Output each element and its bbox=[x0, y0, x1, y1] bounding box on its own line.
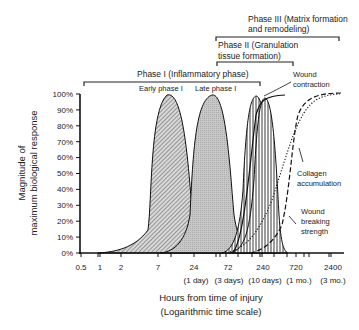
phase-2-label-line1: Phase II (Granulation bbox=[218, 40, 299, 50]
wound-contraction-label-1: Wound bbox=[293, 70, 317, 79]
svg-text:(3 mo.): (3 mo.) bbox=[320, 276, 346, 285]
svg-text:maximum biological response: maximum biological response bbox=[28, 110, 39, 235]
svg-text:30%: 30% bbox=[57, 201, 73, 210]
svg-text:(1 day): (1 day) bbox=[184, 276, 209, 285]
phase-3-label-line1: Phase III (Matrix formation bbox=[248, 14, 348, 24]
svg-text:Magnitude of: Magnitude of bbox=[16, 145, 27, 200]
svg-text:0%: 0% bbox=[61, 249, 73, 258]
wound-contraction-label-2: contraction bbox=[293, 80, 330, 89]
svg-text:(Logarithmic time scale): (Logarithmic time scale) bbox=[161, 306, 262, 317]
x-tick-labels: 0.5 1 2 7 24 72 240 720 2400 (1 day) (3 … bbox=[75, 263, 346, 285]
svg-text:0.5: 0.5 bbox=[75, 263, 87, 272]
svg-text:2: 2 bbox=[119, 263, 124, 272]
svg-text:40%: 40% bbox=[57, 185, 73, 194]
phase-2-bracket bbox=[217, 62, 293, 66]
svg-text:90%: 90% bbox=[57, 106, 73, 115]
x-axis-title: Hours from time of injury (Logarithmic t… bbox=[159, 292, 263, 317]
svg-text:240: 240 bbox=[256, 263, 270, 272]
breaking-strength-label-3: strength bbox=[301, 227, 328, 236]
svg-text:(1 mo.): (1 mo.) bbox=[286, 276, 312, 285]
svg-text:24: 24 bbox=[190, 263, 199, 272]
svg-text:100%: 100% bbox=[53, 90, 73, 99]
collagen-label-1: Collagen bbox=[297, 169, 327, 178]
svg-text:60%: 60% bbox=[57, 153, 73, 162]
svg-text:7: 7 bbox=[156, 263, 161, 272]
late-phase-label: Late phase I bbox=[195, 84, 236, 93]
wound-healing-chart: Phase III (Matrix formation and remodeli… bbox=[0, 0, 359, 330]
breaking-strength-label-1: Wound bbox=[301, 207, 325, 216]
phase-3-label-line2: and remodeling) bbox=[248, 24, 310, 34]
y-tick-labels: 0% 10% 20% 30% 40% 50% 60% 70% 80% 90% 1… bbox=[53, 90, 73, 258]
svg-text:20%: 20% bbox=[57, 217, 73, 226]
svg-text:1: 1 bbox=[98, 263, 103, 272]
phase-1-label: Phase I (Inflammatory phase) bbox=[137, 69, 249, 79]
svg-text:Hours from time of injury: Hours from time of injury bbox=[159, 292, 263, 303]
svg-text:2400: 2400 bbox=[324, 263, 342, 272]
phase-2-label-line2: tissue formation) bbox=[218, 51, 281, 61]
svg-text:72: 72 bbox=[224, 263, 233, 272]
svg-text:720: 720 bbox=[289, 263, 303, 272]
svg-text:10%: 10% bbox=[57, 233, 73, 242]
y-axis-title: Magnitude of maximum biological response bbox=[16, 110, 39, 235]
svg-text:(10 days): (10 days) bbox=[248, 276, 282, 285]
svg-text:80%: 80% bbox=[57, 122, 73, 131]
collagen-label-2: accumulation bbox=[297, 179, 341, 188]
breaking-strength-label-2: breaking bbox=[301, 217, 330, 226]
svg-text:(3 days): (3 days) bbox=[215, 276, 244, 285]
early-phase-label: Early phase I bbox=[139, 84, 183, 93]
svg-text:70%: 70% bbox=[57, 138, 73, 147]
svg-text:50%: 50% bbox=[57, 169, 73, 178]
